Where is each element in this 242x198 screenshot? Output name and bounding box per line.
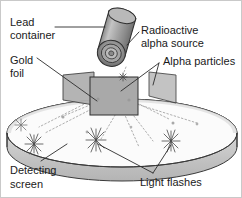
beam-impact-burst: [119, 73, 127, 81]
alpha-dot-5: [130, 126, 133, 129]
label-detecting-screen-line2: screen: [10, 178, 43, 190]
alpha-dot-1: [62, 116, 65, 119]
label-lead-container-line1: Lead: [10, 16, 34, 28]
block-mark-2: [127, 98, 130, 101]
label-alpha-source-line1: Radioactive: [141, 24, 198, 36]
specimen-block-rect: [90, 77, 138, 115]
alpha-dot-3: [172, 122, 175, 125]
label-alpha-source-line2: alpha source: [141, 37, 204, 49]
label-detecting-screen-line1: Detecting: [10, 164, 56, 176]
block-mark-1: [96, 97, 99, 100]
gold-foil-shape: [63, 72, 94, 105]
light-flash-back-left: [15, 119, 27, 131]
label-alpha-particles: Alpha particles: [163, 55, 236, 67]
gold-foil-plate: [63, 72, 94, 105]
label-lead-container-line2: container: [10, 29, 56, 41]
lead-container: [94, 5, 137, 69]
label-light-flashes: Light flashes: [140, 176, 202, 188]
alpha-dot-4: [196, 123, 199, 126]
diagram-canvas: Lead container Gold foil Radioactive alp…: [0, 0, 242, 198]
right-plate-shape: [149, 72, 176, 103]
label-gold-foil-line2: foil: [10, 67, 24, 79]
right-plate: [149, 72, 176, 103]
specimen-block: [90, 77, 138, 115]
rutherford-scattering-diagram: Lead container Gold foil Radioactive alp…: [1, 1, 242, 198]
label-gold-foil-line1: Gold: [10, 54, 33, 66]
